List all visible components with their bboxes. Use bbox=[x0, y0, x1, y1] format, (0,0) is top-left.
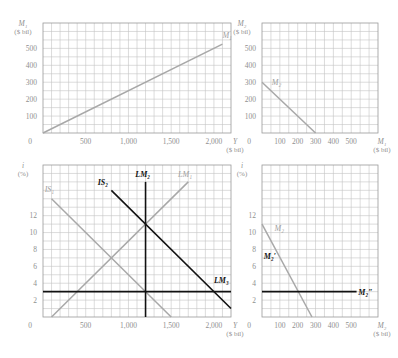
x-tick-label: 300 bbox=[310, 321, 322, 330]
y-tick-label: 200 bbox=[245, 95, 257, 104]
x-tick-label: 1,000 bbox=[120, 137, 137, 146]
y-tick-label: 4 bbox=[33, 279, 37, 288]
x-tick-label: 500 bbox=[346, 321, 358, 330]
y-axis-label: i bbox=[22, 161, 24, 170]
x-tick-label: 200 bbox=[292, 137, 304, 146]
y-axis-label: M₁ bbox=[18, 19, 28, 28]
series-line bbox=[43, 44, 222, 133]
x-axis-unit: ($ bil) bbox=[226, 146, 244, 154]
series-line bbox=[262, 224, 312, 317]
series-label: IS₂ bbox=[97, 178, 109, 187]
y-tick-label: 8 bbox=[252, 245, 256, 254]
y-tick-label: 200 bbox=[26, 95, 38, 104]
y-tick-label: 2 bbox=[252, 296, 256, 305]
series-label: LM₂ bbox=[134, 170, 150, 179]
x-axis-unit: ($ bil) bbox=[226, 330, 244, 338]
x-tick-label: 1,000 bbox=[120, 321, 137, 330]
y-tick-label: 100 bbox=[26, 112, 38, 121]
origin-label: 0 bbox=[247, 137, 251, 146]
y-tick-label: 500 bbox=[26, 44, 38, 53]
origin-label: 0 bbox=[28, 137, 32, 146]
x-tick-label: 1,500 bbox=[163, 321, 180, 330]
x-tick-label: 500 bbox=[80, 321, 92, 330]
x-tick-label: 2,000 bbox=[205, 321, 222, 330]
chart-i-vs-m2: 100200300400500246810120i(%)M₂($ bil)M₂M… bbox=[237, 161, 392, 338]
y-tick-label: 300 bbox=[26, 78, 38, 87]
y-tick-label: 400 bbox=[26, 61, 38, 70]
y-tick-label: 12 bbox=[249, 211, 257, 220]
series-label: M₂ bbox=[271, 78, 282, 87]
y-tick-label: 12 bbox=[30, 211, 38, 220]
x-tick-label: 2,000 bbox=[205, 137, 222, 146]
x-axis-label: M₂ bbox=[377, 321, 387, 330]
chart-m2-vs-m1: 1002003004005001002003004005000M₂($ bil)… bbox=[233, 19, 391, 154]
chart-is-lm: 5001,0001,5002,000246810120i(%)Y($ bil)I… bbox=[18, 161, 245, 338]
y-tick-label: 400 bbox=[245, 61, 257, 70]
series-label: IS₁ bbox=[44, 185, 55, 194]
x-tick-label: 400 bbox=[328, 321, 340, 330]
y-tick-label: 300 bbox=[245, 78, 257, 87]
y-axis-unit: (%) bbox=[18, 170, 29, 178]
x-tick-label: 400 bbox=[328, 137, 340, 146]
y-tick-label: 10 bbox=[30, 228, 38, 237]
y-tick-label: 10 bbox=[249, 228, 257, 237]
x-tick-label: 100 bbox=[274, 321, 286, 330]
x-tick-label: 200 bbox=[292, 321, 304, 330]
y-tick-label: 6 bbox=[252, 262, 256, 271]
chart-m1-vs-y: 5001,0001,5002,0001002003004005000M₁($ b… bbox=[14, 19, 244, 154]
four-panel-chart: 5001,0001,5002,0001002003004005000M₁($ b… bbox=[0, 0, 398, 358]
y-axis-unit: ($ bil) bbox=[14, 28, 32, 36]
y-axis-label: M₂ bbox=[237, 19, 247, 28]
x-tick-label: 500 bbox=[80, 137, 92, 146]
series-label: M₂ bbox=[273, 224, 284, 233]
x-axis-label: Y bbox=[233, 137, 238, 146]
y-axis-unit: ($ bil) bbox=[233, 28, 251, 36]
x-tick-label: 1,500 bbox=[163, 137, 180, 146]
series-label: M₁ bbox=[221, 31, 232, 40]
y-tick-label: 100 bbox=[245, 112, 257, 121]
series-label: M₂′ bbox=[263, 252, 276, 261]
x-axis-unit: ($ bil) bbox=[373, 330, 391, 338]
series-label: M₂″ bbox=[357, 288, 372, 297]
y-axis-unit: (%) bbox=[237, 170, 248, 178]
origin-label: 0 bbox=[247, 321, 251, 330]
x-tick-label: 100 bbox=[274, 137, 286, 146]
x-axis-label: Y bbox=[233, 321, 238, 330]
y-axis-label: i bbox=[241, 161, 243, 170]
grid bbox=[43, 165, 231, 317]
y-tick-label: 4 bbox=[252, 279, 256, 288]
y-tick-label: 8 bbox=[33, 245, 37, 254]
x-tick-label: 300 bbox=[310, 137, 322, 146]
x-axis-label: M₁ bbox=[377, 137, 387, 146]
y-tick-label: 6 bbox=[33, 262, 37, 271]
x-axis-unit: ($ bil) bbox=[373, 146, 391, 154]
y-tick-label: 2 bbox=[33, 296, 37, 305]
x-tick-label: 500 bbox=[346, 137, 358, 146]
series-label: LM₃ bbox=[213, 276, 229, 285]
grid bbox=[43, 23, 231, 133]
y-tick-label: 500 bbox=[245, 44, 257, 53]
series-label: LM₁ bbox=[177, 170, 192, 179]
origin-label: 0 bbox=[28, 321, 32, 330]
